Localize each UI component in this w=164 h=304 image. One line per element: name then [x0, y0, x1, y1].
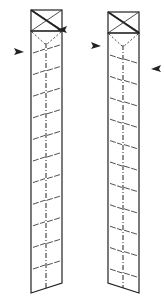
- right-strip-crease-left: [110, 119, 122, 123]
- left-strip-crease-right: [47, 175, 60, 179]
- right-strip-crease-right: [124, 273, 137, 277]
- right-strip-crease-right: [124, 230, 137, 234]
- left-strip-crease-left: [33, 222, 45, 226]
- left-strip-crease-left: [33, 243, 45, 247]
- right-strip-crease-right: [124, 145, 137, 149]
- right-strip-crease-right: [124, 59, 137, 63]
- right-strip-crease-right: [124, 102, 137, 106]
- right-strip-v-fold-right: [123, 34, 138, 47]
- left-strip-crease-right: [47, 67, 60, 71]
- left-strip-crease-left: [33, 92, 45, 96]
- left-strip-crease-right: [47, 88, 60, 92]
- right-strip-crease-left: [110, 183, 122, 187]
- left-strip-crease-right: [47, 45, 60, 49]
- left-strip-crease-left: [33, 200, 45, 204]
- left-strip-crease-left: [33, 265, 45, 269]
- right-strip-crease-left: [110, 248, 122, 252]
- left-strip-crease-left: [33, 157, 45, 161]
- right-strip-arrowhead-icon-1: [151, 65, 161, 72]
- left-strip-box-diagonal-inner: [34, 12, 62, 30]
- right-strip-crease-right: [124, 166, 137, 170]
- right-strip-crease-left: [110, 141, 122, 145]
- right-strip-crease-left: [110, 98, 122, 102]
- right-strip-box-diagonal-inner: [111, 14, 139, 32]
- right-strip-v-fold-left: [109, 34, 123, 47]
- left-strip-arrowhead-icon-1: [14, 48, 24, 55]
- left-strip-crease-right: [47, 218, 60, 222]
- right-strip-crease-right: [124, 252, 137, 256]
- right-strip-crease-left: [110, 269, 122, 273]
- left-strip-crease-right: [47, 239, 60, 243]
- right-strip-arrowhead-icon-0: [91, 42, 101, 49]
- right-strip-crease-left: [110, 205, 122, 209]
- left-strip-crease-left: [33, 135, 45, 139]
- left-strip-crease-left: [33, 49, 45, 53]
- left-strip-v-fold-left: [32, 32, 46, 45]
- right-strip-crease-left: [110, 76, 122, 80]
- left-strip-crease-right: [47, 153, 60, 157]
- right-strip-crease-right: [124, 80, 137, 84]
- left-strip-crease-left: [33, 179, 45, 183]
- right-strip-crease-left: [110, 226, 122, 230]
- right-strip-crease-right: [124, 123, 137, 127]
- left-strip-crease-right: [47, 131, 60, 135]
- fold-diagram: [0, 0, 164, 304]
- left-strip-crease-left: [33, 114, 45, 118]
- right-strip-crease-left: [110, 55, 122, 59]
- right-strip-crease-right: [124, 187, 137, 191]
- right-strip-crease-left: [110, 162, 122, 166]
- left-strip-crease-left: [33, 71, 45, 75]
- left-strip-crease-right: [47, 196, 60, 200]
- left-strip-v-fold-right: [46, 32, 61, 45]
- right-strip-crease-right: [124, 209, 137, 213]
- left-strip-crease-right: [47, 110, 60, 114]
- left-strip-crease-right: [47, 261, 60, 265]
